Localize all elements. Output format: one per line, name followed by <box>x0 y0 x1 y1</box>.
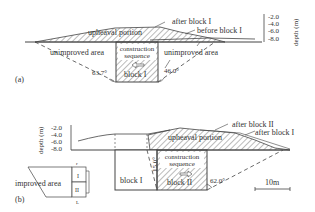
before-block-label: before block I <box>197 26 242 35</box>
right-angle-label: 46.0° <box>164 67 179 75</box>
leader-line <box>245 131 255 135</box>
left-angle-label: 63.7° <box>92 69 107 77</box>
panel-a: upheaval portion after block I before bl… <box>15 13 300 84</box>
panel-a-tag: (a) <box>15 75 24 84</box>
diagram-canvas: upheaval portion after block I before bl… <box>0 0 315 212</box>
left-area-label: unimproved area <box>50 48 104 57</box>
block-ii-label: block II <box>167 178 192 187</box>
right-angle-label: 62.0° <box>210 177 225 185</box>
inset-area-label: improved area <box>15 179 61 188</box>
panel-b-tag: (b) <box>15 195 25 204</box>
panel-b: -2.0 -4.0 -6.0 -8.0 depth (m) upheaval p… <box>15 120 294 205</box>
left-angle-label: 15.0° <box>151 157 159 172</box>
upheaval-label: upheaval portion <box>168 133 222 142</box>
inset-bottom-mark: L <box>76 200 79 205</box>
leader-line <box>215 124 228 130</box>
block-i-label: block I <box>120 176 143 185</box>
right-area-label: unimproved area <box>164 48 218 57</box>
scale-label: 10m <box>265 178 280 187</box>
depth-axis-label: depth (m) <box>37 126 45 154</box>
after-leader <box>155 22 165 27</box>
inset-bracket <box>86 171 89 193</box>
inset-block-i <box>72 167 86 182</box>
construction-line-2: sequence <box>124 52 150 60</box>
block-i-label: block I <box>124 70 147 79</box>
depth-tick: -6.0 <box>268 27 280 35</box>
right-area-leader <box>197 42 200 46</box>
before-leader <box>185 30 195 34</box>
depth-axis-label: depth (m) <box>292 18 300 46</box>
upheaval-label: upheaval portion <box>88 28 142 37</box>
after-block-i-label: after block I <box>255 128 294 137</box>
inset-top-mark: r <box>76 161 78 166</box>
after-block-label: after block I <box>172 17 211 26</box>
inset-block-ii-label: II <box>75 187 79 193</box>
depth-tick: -8.0 <box>268 35 280 43</box>
inset-block-i-label: I <box>77 173 79 179</box>
depth-tick: -8.0 <box>51 145 63 153</box>
construction-line-2: sequence <box>169 160 195 168</box>
